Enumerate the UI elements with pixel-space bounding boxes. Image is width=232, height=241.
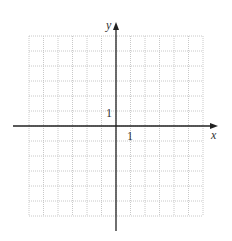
- coordinate-plane: y x 1 1: [0, 0, 232, 241]
- x-axis-label: x: [210, 128, 217, 142]
- y-axis-label: y: [105, 18, 112, 32]
- x-unit-tick-label: 1: [127, 129, 133, 143]
- y-axis-arrow-icon: [113, 22, 119, 30]
- y-unit-tick-label: 1: [106, 106, 112, 120]
